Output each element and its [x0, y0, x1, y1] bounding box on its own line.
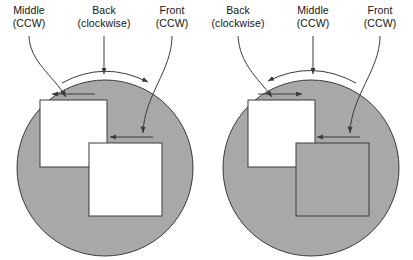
label-back-line2: (clockwise) [77, 17, 130, 29]
label-middle-line2: (CCW) [297, 17, 330, 29]
label-back-line1: Back [92, 4, 116, 16]
label-middle-line1: Middle [297, 4, 329, 16]
figure-container: Middle (CCW) Back (clockwise) Front (CCW… [0, 0, 413, 260]
label-front-line2: (CCW) [364, 17, 397, 29]
front-square [89, 143, 162, 216]
front-square [296, 143, 369, 216]
label-front-line2: (CCW) [156, 17, 189, 29]
label-back-line1: Back [226, 4, 250, 16]
label-front-line1: Front [367, 4, 392, 16]
label-middle-line1: Middle [13, 4, 45, 16]
label-back-line2: (clockwise) [211, 17, 264, 29]
winding-order-figure: Middle (CCW) Back (clockwise) Front (CCW… [0, 0, 413, 260]
label-middle-line2: (CCW) [13, 17, 46, 29]
label-front-line1: Front [159, 4, 184, 16]
